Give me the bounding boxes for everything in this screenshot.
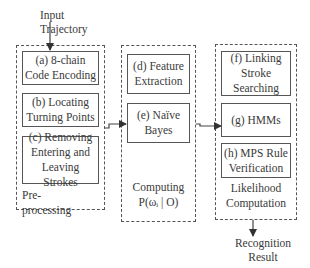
- arrow-computing-to-likelihood: [196, 124, 221, 126]
- arrows-layer: [0, 0, 310, 268]
- arrow-preprocessing-to-computing: [105, 124, 126, 128]
